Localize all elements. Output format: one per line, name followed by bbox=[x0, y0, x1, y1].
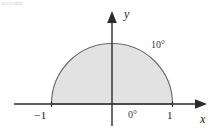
x-tick-label-pos-one: 1 bbox=[167, 110, 173, 121]
x-axis-arrowhead bbox=[195, 99, 207, 109]
math-figure-svg bbox=[0, 0, 216, 132]
angle-label-zero-degrees: 0° bbox=[128, 110, 137, 120]
x-tick-label-neg-one: −1 bbox=[34, 110, 47, 121]
axis-label-x: x bbox=[200, 113, 205, 125]
axis-label-y: y bbox=[124, 8, 129, 20]
angle-label-ten-degrees: 10° bbox=[151, 40, 165, 50]
y-axis-arrowhead bbox=[107, 11, 117, 23]
figure-container: FIGURE y x −1 1 0° 10° bbox=[0, 0, 216, 132]
